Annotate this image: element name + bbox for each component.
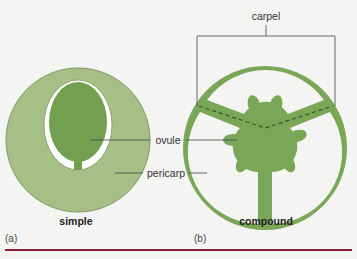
caption-compound: compound bbox=[239, 215, 293, 227]
funiculus bbox=[74, 158, 82, 170]
ovule bbox=[49, 82, 107, 162]
panel-letter-a: (a) bbox=[5, 233, 17, 244]
central-axis bbox=[247, 130, 283, 166]
carpel-label: carpel bbox=[252, 10, 281, 22]
pericarp-label: pericarp bbox=[147, 167, 185, 179]
ovary-diagram: carpel ovule pericarp simple compound (a… bbox=[0, 0, 357, 259]
panel-letter-b: (b) bbox=[194, 233, 206, 244]
ovule-label: ovule bbox=[155, 134, 180, 146]
caption-simple: simple bbox=[59, 215, 92, 227]
compound-ovary bbox=[183, 25, 347, 230]
